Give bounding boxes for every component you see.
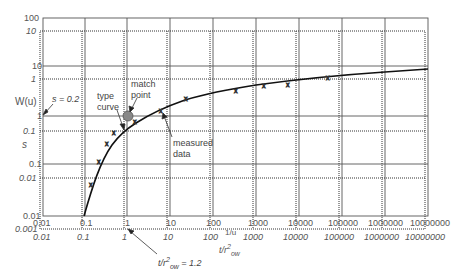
t-axis-main: t/r [219, 245, 227, 255]
x-tick-dotted-10000: 10000 [283, 233, 308, 242]
x-tick-dotted-100: 100 [203, 233, 218, 242]
match-point-note: match point [131, 79, 156, 101]
x-tick-dotted-0.01: 0.01 [33, 233, 51, 242]
svg-text:x: x [112, 129, 116, 136]
dotted-grid [40, 31, 425, 229]
t-match-note: t/r2ow = 1.2 [158, 254, 202, 272]
x-tick-solid-0.01: 0.01 [33, 219, 51, 228]
measured-data-note-line2: data [173, 149, 213, 160]
s-match-note: s = 0.2 [52, 94, 79, 105]
x-tick-dotted-100000: 100000 [324, 233, 354, 242]
s-axis-label: s [22, 140, 27, 150]
x-tick-solid-10: 10 [166, 219, 176, 228]
y-tick-solid-100: 100 [24, 14, 39, 23]
y-tick-dotted-0.01: 0.01 [19, 174, 37, 183]
x-tick-dotted-10000000: 10000000 [405, 233, 445, 242]
t-axis-sub: ow [231, 250, 240, 257]
annotation-arrows [43, 98, 172, 254]
svg-text:x: x [105, 140, 109, 147]
t-note-sub: ow [170, 263, 179, 270]
type-curve-note-line2: curve [97, 102, 119, 113]
x-tick-solid-1000000: 1000000 [368, 219, 403, 228]
y-tick-solid-1: 1 [37, 112, 42, 121]
y-tick-dotted-0.1: 0.1 [23, 127, 36, 136]
y-tick-dotted-1: 1 [31, 75, 36, 84]
wu-axis-label: W(u) [15, 97, 37, 107]
t-note-val: = 1.2 [179, 258, 202, 268]
svg-text:x: x [133, 118, 137, 125]
solid-grid [43, 18, 428, 216]
inv-u-axis-label: 1/u [225, 229, 236, 237]
svg-text:x: x [262, 82, 266, 89]
measured-data-note-line1: measured [173, 138, 213, 149]
x-tick-dotted-10: 10 [163, 233, 173, 242]
x-tick-dotted-0.1: 0.1 [77, 233, 90, 242]
type-curve-note-line1: type [97, 91, 119, 102]
svg-text:x: x [326, 74, 330, 81]
x-tick-solid-0.1: 0.1 [80, 219, 93, 228]
x-tick-dotted-1: 1 [122, 233, 127, 242]
match-point-note-line1: match [131, 79, 156, 90]
t-axis-label: t/r2ow [219, 243, 240, 257]
measured-data-note: measured data [173, 138, 213, 160]
svg-text:x: x [234, 87, 238, 94]
x-tick-solid-10000: 10000 [288, 219, 313, 228]
y-tick-dotted-10: 10 [26, 27, 36, 36]
match-point-note-line2: point [131, 90, 156, 101]
x-tick-solid-100: 100 [206, 219, 221, 228]
y-tick-solid-10: 10 [32, 62, 42, 71]
svg-text:x: x [159, 107, 163, 114]
svg-text:x: x [184, 95, 188, 102]
t-note-main: t/r [158, 258, 166, 268]
svg-text:x: x [97, 158, 101, 165]
x-tick-solid-100000: 100000 [328, 219, 358, 228]
match-point-marker [123, 111, 133, 121]
svg-text:x: x [89, 181, 93, 188]
x-tick-solid-1000: 1000 [248, 219, 268, 228]
x-tick-solid-1: 1 [125, 219, 130, 228]
type-curve-note: type curve [97, 91, 119, 113]
y-tick-solid-0.1: 0.1 [29, 160, 42, 169]
svg-text:x: x [286, 81, 290, 88]
x-tick-dotted-1000000: 1000000 [364, 233, 399, 242]
x-tick-solid-10000000: 10000000 [410, 219, 450, 228]
x-tick-dotted-1000: 1000 [243, 233, 263, 242]
